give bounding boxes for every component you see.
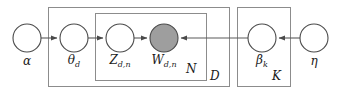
node-label-w-dn: Wd,n bbox=[137, 54, 191, 66]
node-label-eta-main: η bbox=[310, 54, 317, 68]
diagram-canvas bbox=[0, 0, 341, 94]
node-label-alpha: α bbox=[0, 55, 54, 67]
node-label-w-sub: d,n bbox=[164, 60, 177, 69]
node-label-theta-main: θ bbox=[68, 53, 75, 67]
plate-label-N: N bbox=[186, 63, 197, 75]
node-label-z-main: Z bbox=[109, 53, 117, 67]
lda-plate-diagram: α θd Zd,n Wd,n βk η N D K bbox=[0, 0, 341, 94]
node-z-dn bbox=[106, 24, 134, 52]
node-eta bbox=[300, 24, 328, 52]
node-label-theta-sub: d bbox=[75, 60, 80, 69]
node-label-beta-sub: k bbox=[263, 60, 268, 69]
node-w-dn-observed bbox=[150, 24, 178, 52]
node-label-alpha-main: α bbox=[23, 54, 31, 68]
node-label-eta: η bbox=[287, 55, 341, 67]
node-label-beta-k: βk bbox=[235, 54, 289, 66]
node-theta-d bbox=[60, 24, 88, 52]
node-beta-k bbox=[248, 24, 276, 52]
node-label-beta-main: β bbox=[256, 53, 263, 67]
node-label-w-main: W bbox=[151, 53, 163, 67]
node-label-z-sub: d,n bbox=[118, 60, 131, 69]
node-alpha bbox=[13, 24, 41, 52]
plate-label-K: K bbox=[272, 70, 281, 82]
plate-label-D: D bbox=[210, 70, 220, 82]
